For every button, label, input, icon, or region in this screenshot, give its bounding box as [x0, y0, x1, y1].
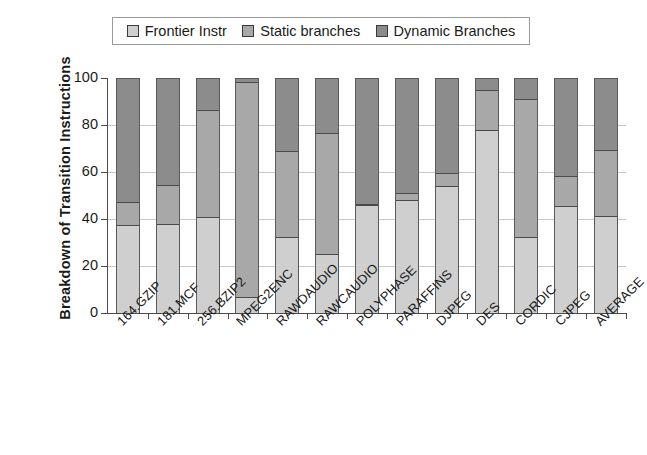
- y-tick-mark: [101, 266, 108, 267]
- bar-segment-dynamic-branches: [396, 78, 418, 194]
- chart-legend: Frontier InstrStatic branchesDynamic Bra…: [112, 17, 530, 45]
- bar-stack[interactable]: [554, 78, 578, 313]
- bar-segment-static-branches: [555, 177, 577, 208]
- bar-segment-dynamic-branches: [276, 78, 298, 152]
- bar-segment-static-branches: [436, 174, 458, 187]
- bar-segment-static-branches: [396, 194, 418, 201]
- x-tick-mark: [307, 313, 308, 319]
- y-tick-mark: [101, 313, 108, 314]
- legend-swatch-icon: [127, 25, 139, 37]
- y-tick-mark: [101, 219, 108, 220]
- legend-label: Static branches: [260, 23, 360, 39]
- bar-segment-static-branches: [515, 100, 537, 237]
- y-tick-label: 100: [46, 70, 98, 85]
- x-tick-mark: [228, 313, 229, 319]
- bar-stack[interactable]: [514, 78, 538, 313]
- y-tick-label: 40: [46, 211, 98, 226]
- legend-label: Frontier Instr: [145, 23, 227, 39]
- x-tick-mark: [387, 313, 388, 319]
- x-tick-mark: [546, 313, 547, 319]
- bar-segment-frontier-instr: [476, 131, 498, 313]
- x-axis-tick-labels: 164.GZIP181.MCF256.BZIP2MPEG2ENCRAWDAUDI…: [0, 318, 647, 455]
- legend-entry[interactable]: Frontier Instr: [127, 23, 227, 39]
- bar-segment-static-branches: [197, 111, 219, 218]
- legend-swatch-icon: [376, 25, 388, 37]
- stacked-bar-chart: Breakdown of Transition Instructions Fro…: [0, 0, 647, 455]
- legend-label: Dynamic Branches: [394, 23, 516, 39]
- bar-segment-static-branches: [117, 203, 139, 227]
- bar-segment-static-branches: [595, 151, 617, 217]
- bar-segment-dynamic-branches: [555, 78, 577, 177]
- y-tick-mark: [101, 125, 108, 126]
- bar-segment-dynamic-branches: [476, 78, 498, 91]
- y-tick-mark: [101, 78, 108, 79]
- bar-stack[interactable]: [475, 78, 499, 313]
- bar-stack[interactable]: [196, 78, 220, 313]
- x-tick-mark: [427, 313, 428, 319]
- bar-segment-dynamic-branches: [356, 78, 378, 205]
- legend-entry[interactable]: Static branches: [242, 23, 360, 39]
- x-tick-mark: [626, 313, 627, 319]
- bar-segment-dynamic-branches: [515, 78, 537, 100]
- bar-stack[interactable]: [594, 78, 618, 313]
- bar-stack[interactable]: [156, 78, 180, 313]
- x-tick-mark: [467, 313, 468, 319]
- bar-segment-static-branches: [316, 134, 338, 255]
- bar-stack[interactable]: [116, 78, 140, 313]
- bar-segment-dynamic-branches: [436, 78, 458, 174]
- y-tick-mark: [101, 172, 108, 173]
- bar-segment-dynamic-branches: [157, 78, 179, 186]
- y-tick-label: 80: [46, 117, 98, 132]
- bar-segment-dynamic-branches: [197, 78, 219, 111]
- bar-segment-dynamic-branches: [316, 78, 338, 134]
- bar-segment-dynamic-branches: [117, 78, 139, 203]
- bar-segment-frontier-instr: [436, 187, 458, 313]
- y-tick-label: 60: [46, 164, 98, 179]
- x-tick-mark: [506, 313, 507, 319]
- x-tick-mark: [188, 313, 189, 319]
- bar-segment-static-branches: [276, 152, 298, 238]
- bar-segment-static-branches: [236, 83, 258, 298]
- bar-segment-dynamic-branches: [595, 78, 617, 151]
- x-tick-mark: [347, 313, 348, 319]
- y-tick-label: 20: [46, 258, 98, 273]
- x-tick-mark: [586, 313, 587, 319]
- bar-segment-static-branches: [157, 186, 179, 225]
- x-tick-mark: [148, 313, 149, 319]
- bar-segment-static-branches: [476, 91, 498, 131]
- legend-swatch-icon: [242, 25, 254, 37]
- x-tick-mark: [267, 313, 268, 319]
- legend-entry[interactable]: Dynamic Branches: [376, 23, 516, 39]
